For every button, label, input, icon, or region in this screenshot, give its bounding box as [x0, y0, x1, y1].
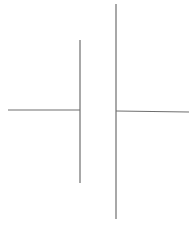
right-lead-wire — [116, 111, 189, 112]
battery-cell-diagram — [0, 0, 193, 228]
